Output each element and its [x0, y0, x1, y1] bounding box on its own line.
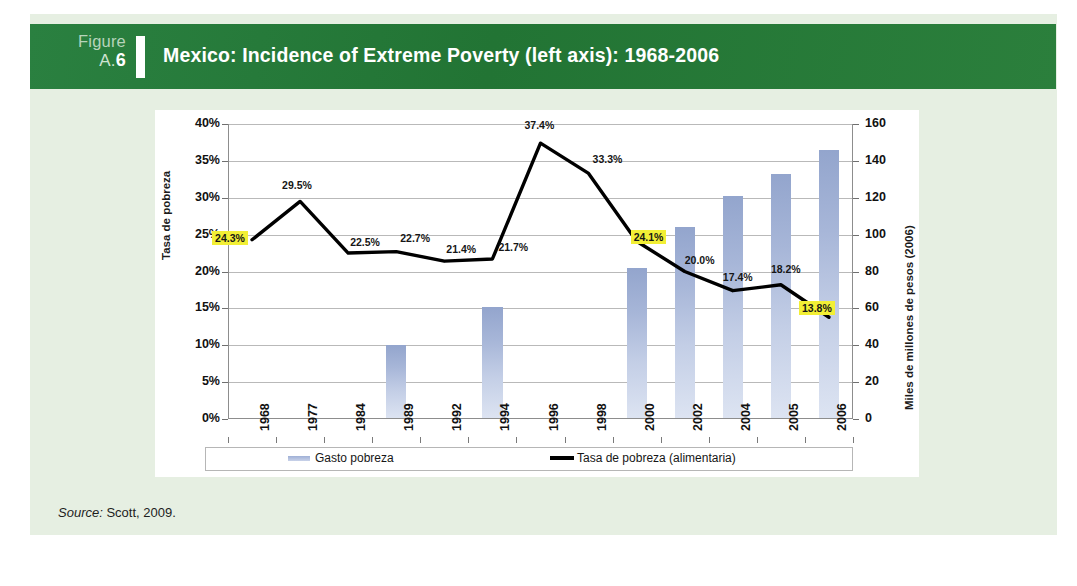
- chart-card: Tasa de pobreza Miles de millones de pes…: [155, 110, 919, 477]
- right-axis-tickmark: [853, 382, 859, 383]
- data-label: 17.4%: [723, 271, 753, 283]
- x-axis-tickmark: [516, 437, 517, 443]
- x-axis-tickmark: [565, 437, 566, 443]
- left-axis-tick-label: 40%: [160, 116, 220, 130]
- right-axis-tick-label: 0: [865, 411, 911, 425]
- left-axis-title: Tasa de pobreza: [160, 171, 172, 260]
- right-axis-tick-label: 160: [865, 116, 911, 130]
- left-axis-tick-label: 0%: [160, 411, 220, 425]
- x-axis-tickmark: [420, 437, 421, 443]
- data-label: 20.0%: [685, 254, 715, 266]
- right-axis-tickmark: [853, 419, 859, 420]
- left-axis-tick-label: 25%: [160, 227, 220, 241]
- data-label: 37.4%: [525, 119, 555, 131]
- data-label: 24.1%: [631, 230, 667, 244]
- right-axis-tickmark: [853, 308, 859, 309]
- source-note: Source: Scott, 2009.: [58, 505, 176, 520]
- x-axis-tickmark: [276, 437, 277, 443]
- x-axis-label: 1989: [402, 403, 416, 431]
- right-axis-tickmark: [853, 345, 859, 346]
- data-label: 21.4%: [446, 243, 476, 255]
- data-label: 21.7%: [498, 241, 528, 253]
- x-axis-tickmark: [228, 437, 229, 443]
- source-text: Scott, 2009.: [106, 505, 175, 520]
- x-axis-label: 2004: [739, 403, 753, 431]
- figure-word: Figure: [48, 32, 126, 50]
- x-axis-label: 1996: [547, 403, 561, 431]
- figure-id: A.6: [48, 50, 126, 70]
- data-label: 13.8%: [799, 301, 835, 315]
- right-axis-tick-label: 120: [865, 190, 911, 204]
- plot-frame: [228, 124, 853, 419]
- legend-line-swatch-icon: [550, 456, 574, 460]
- header-divider-rule: [136, 36, 145, 78]
- data-label: 33.3%: [593, 153, 623, 165]
- figure-id-value: 6: [116, 50, 126, 70]
- left-axis-tick-label: 15%: [160, 300, 220, 314]
- right-axis-tickmark: [853, 124, 859, 125]
- right-axis-tick-label: 100: [865, 227, 911, 241]
- x-axis-label: 1994: [498, 403, 512, 431]
- data-label: 18.2%: [771, 263, 801, 275]
- x-axis-tickmark: [324, 437, 325, 443]
- x-axis-tickmark: [709, 437, 710, 443]
- x-axis-tickmark: [805, 437, 806, 443]
- data-label: 22.5%: [350, 236, 380, 248]
- right-axis-tickmark: [853, 272, 859, 273]
- right-axis-tick-label: 40: [865, 337, 911, 351]
- legend-item-tasa-de-pobreza: Tasa de pobreza (alimentaria): [550, 451, 736, 465]
- right-axis-tickmark: [853, 161, 859, 162]
- figure-number: Figure A.6: [48, 32, 126, 71]
- legend-label: Gasto pobreza: [315, 451, 394, 465]
- left-axis-tick-label: 5%: [160, 374, 220, 388]
- x-axis-label: 2006: [835, 403, 849, 431]
- right-axis-tick-label: 80: [865, 264, 911, 278]
- x-axis-label: 1977: [306, 403, 320, 431]
- x-axis-tickmark: [468, 437, 469, 443]
- data-label: 29.5%: [282, 179, 312, 191]
- x-axis-tickmark: [613, 437, 614, 443]
- x-axis-tickmark: [661, 437, 662, 443]
- x-axis-label: 2005: [787, 403, 801, 431]
- chart-legend: Gasto pobreza Tasa de pobreza (alimentar…: [205, 447, 853, 471]
- x-axis-tickmark: [757, 437, 758, 443]
- legend-item-gasto-pobreza: Gasto pobreza: [288, 451, 394, 465]
- figure-title: Mexico: Incidence of Extreme Poverty (le…: [163, 44, 719, 67]
- plot-area: 24.3%29.5%22.5%22.7%21.4%21.7%37.4%33.3%…: [228, 124, 853, 419]
- legend-label: Tasa de pobreza (alimentaria): [577, 451, 736, 465]
- x-axis-label: 2000: [643, 403, 657, 431]
- x-axis-label: 1998: [595, 403, 609, 431]
- source-label: Source:: [58, 505, 103, 520]
- left-axis-tick-label: 30%: [160, 190, 220, 204]
- x-axis-label: 1992: [450, 403, 464, 431]
- right-axis-tickmark: [853, 235, 859, 236]
- figure-header-banner: Figure A.6 Mexico: Incidence of Extreme …: [30, 24, 1056, 89]
- x-axis-label: 2002: [691, 403, 705, 431]
- right-axis-tick-label: 140: [865, 153, 911, 167]
- left-axis-tick-label: 20%: [160, 264, 220, 278]
- data-label: 24.3%: [212, 231, 248, 245]
- left-axis-tick-label: 35%: [160, 153, 220, 167]
- x-axis-tickmark: [853, 437, 854, 443]
- figure-id-prefix: A.: [99, 51, 115, 70]
- right-axis-tickmark: [853, 198, 859, 199]
- x-axis-label: 1984: [354, 403, 368, 431]
- x-axis-label: 1968: [258, 403, 272, 431]
- legend-bar-swatch-icon: [288, 456, 310, 461]
- left-axis-tickmark: [222, 419, 228, 420]
- x-axis-tickmark: [372, 437, 373, 443]
- left-axis-tick-label: 10%: [160, 337, 220, 351]
- right-axis-tick-label: 60: [865, 300, 911, 314]
- data-label: 22.7%: [400, 232, 430, 244]
- right-axis-tick-label: 20: [865, 374, 911, 388]
